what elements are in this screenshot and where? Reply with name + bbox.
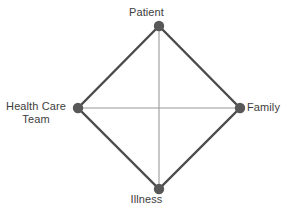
node-patient[interactable]: [154, 21, 164, 31]
node-label-illness-text: Illness: [131, 193, 163, 205]
edge-illness-health-care-team: [78, 108, 159, 189]
node-label-health-care-team-line2: Team: [0, 113, 72, 126]
node-label-health-care-team: Health Care Team: [0, 100, 72, 125]
node-family[interactable]: [235, 103, 245, 113]
edge-patient-family: [159, 26, 240, 108]
diagram-canvas: Patient Family Illness Health Care Team: [0, 0, 293, 210]
node-label-patient-text: Patient: [129, 6, 164, 18]
node-label-family-text: Family: [247, 101, 280, 113]
edge-family-illness: [159, 108, 240, 189]
edge-health-care-team-patient: [78, 26, 159, 108]
node-label-patient: Patient: [0, 6, 293, 19]
node-label-health-care-team-line1: Health Care: [0, 100, 72, 113]
node-label-illness: Illness: [0, 193, 293, 206]
node-label-family: Family: [247, 101, 280, 114]
node-health-care-team[interactable]: [73, 103, 83, 113]
